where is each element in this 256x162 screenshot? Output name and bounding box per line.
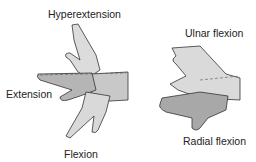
ulnar-flexion-hand xyxy=(170,46,240,100)
label-ulnar-flexion: Ulnar flexion xyxy=(185,27,243,39)
flexion-hand xyxy=(66,92,110,138)
label-flexion: Flexion xyxy=(64,148,98,160)
label-extension: Extension xyxy=(6,88,52,100)
label-radial-flexion: Radial flexion xyxy=(183,135,246,147)
hyperextension-hand xyxy=(66,24,101,78)
radial-flexion-hand xyxy=(160,92,228,130)
label-hyperextension: Hyperextension xyxy=(48,8,121,20)
